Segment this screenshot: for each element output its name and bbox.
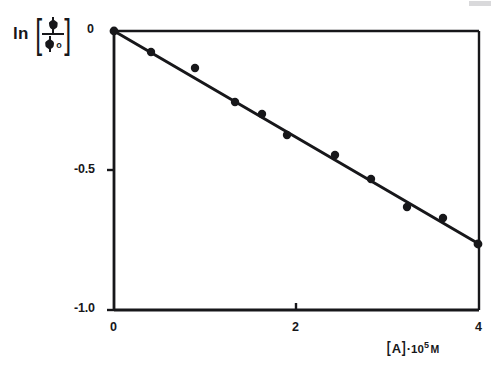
figure-container: ln [ o ] 0 -0.5 -1.0 0 2 4 [A]·105M bbox=[0, 0, 497, 377]
data-point bbox=[283, 131, 291, 139]
data-point bbox=[367, 175, 375, 183]
data-point bbox=[231, 98, 239, 106]
data-point bbox=[403, 203, 411, 211]
data-point bbox=[474, 240, 483, 249]
data-point bbox=[331, 151, 339, 159]
data-point bbox=[147, 48, 155, 56]
axis-frame bbox=[114, 31, 479, 310]
plot-area bbox=[0, 0, 497, 377]
data-point bbox=[191, 64, 199, 72]
data-point bbox=[439, 214, 447, 222]
linear-fit-line bbox=[114, 31, 479, 244]
data-point bbox=[110, 27, 119, 36]
fit-line-group bbox=[114, 31, 479, 244]
data-point bbox=[258, 110, 266, 118]
tick-marks bbox=[107, 170, 296, 310]
